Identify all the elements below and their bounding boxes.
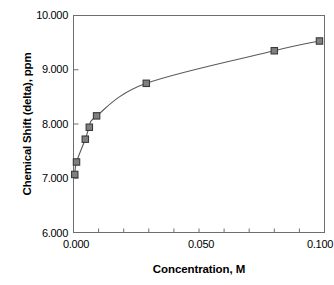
plot-area bbox=[0, 0, 334, 285]
data-point-marker bbox=[72, 171, 78, 177]
data-markers bbox=[72, 38, 323, 178]
data-point-marker bbox=[82, 136, 88, 142]
x-axis-minor-ticks bbox=[99, 229, 300, 233]
chart-container: Chemical Shift (delta), ppm 10.000 9.000… bbox=[0, 0, 334, 285]
plot-svg bbox=[0, 0, 334, 285]
data-point-marker bbox=[93, 113, 99, 119]
data-point-marker bbox=[316, 38, 322, 44]
data-point-marker bbox=[73, 159, 79, 165]
data-point-marker bbox=[143, 80, 149, 86]
data-curve bbox=[75, 41, 320, 174]
data-point-marker bbox=[86, 124, 92, 130]
data-point-marker bbox=[271, 48, 277, 54]
